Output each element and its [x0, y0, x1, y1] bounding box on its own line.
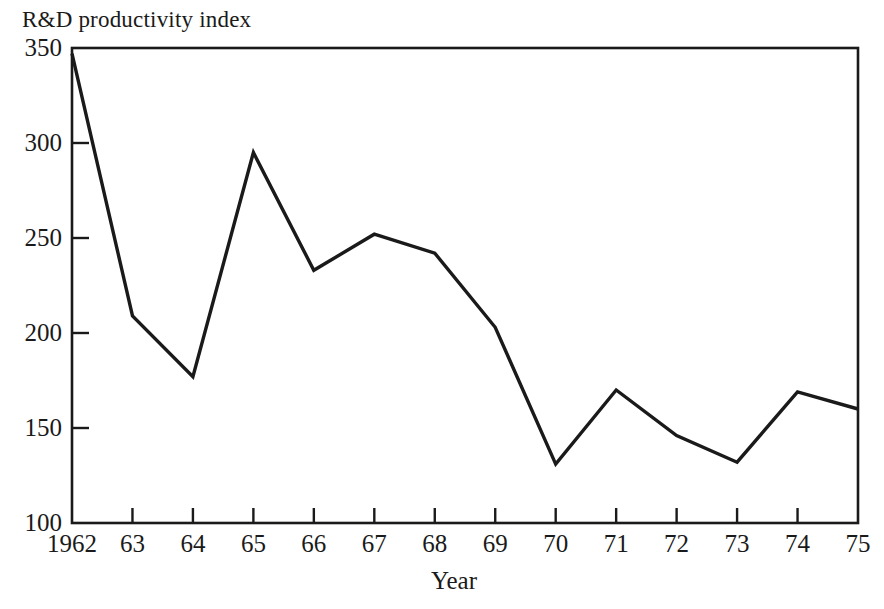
- y-axis-tick-marks: [72, 143, 89, 428]
- x-axis-tick-marks: [132, 508, 797, 523]
- data-series-line: [72, 54, 858, 464]
- x-axis-title: Year: [0, 566, 884, 596]
- y-tick-label: 350: [0, 35, 62, 60]
- y-tick-label: 150: [0, 415, 62, 440]
- y-tick-label: 200: [0, 320, 62, 345]
- x-axis-title-text: Year: [431, 566, 477, 596]
- y-tick-label: 300: [0, 130, 62, 155]
- plot-frame: [72, 48, 858, 523]
- plot-area: [0, 0, 884, 609]
- figure-chart: R&D productivity index 10015020025030035…: [0, 0, 884, 609]
- y-tick-label: 250: [0, 225, 62, 250]
- x-tick-label: 75: [813, 531, 884, 556]
